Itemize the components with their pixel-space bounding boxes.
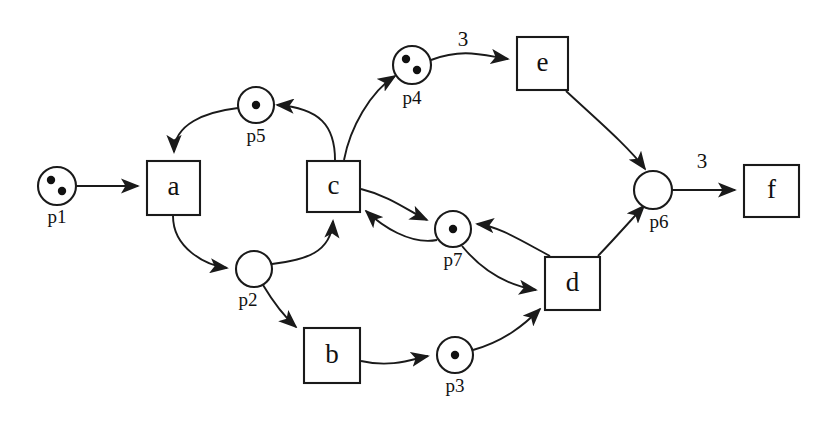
token-p1-2	[58, 187, 66, 195]
place-p6[interactable]: p6	[634, 171, 672, 232]
place-p3[interactable]: p3	[437, 337, 473, 396]
arc-p5-to-a	[174, 108, 238, 152]
transition-f[interactable]: f	[744, 165, 799, 217]
token-p4-1	[402, 55, 410, 63]
transition-c[interactable]: c	[307, 161, 360, 212]
token-p4-2	[413, 66, 421, 74]
place-circle-p1	[38, 167, 76, 205]
transition-label-d: d	[566, 267, 580, 297]
transition-label-e: e	[537, 47, 549, 77]
arc-a-to-p2	[173, 216, 227, 268]
transition-label-c: c	[328, 170, 340, 200]
arc-e-to-p6	[566, 91, 645, 169]
token-p3-1	[451, 351, 459, 359]
arc-d-to-p7	[477, 224, 550, 256]
arc-p7-to-c	[366, 211, 437, 241]
transition-label-f: f	[767, 174, 776, 204]
place-label-p2: p2	[239, 289, 258, 310]
transition-d[interactable]: d	[545, 257, 600, 310]
arc-weights-layer: 33	[458, 27, 708, 173]
place-p5[interactable]: p5	[238, 87, 274, 146]
transitions-layer: abcdef	[147, 37, 799, 383]
petri-net-diagram: p1p2p3p4p5p6p7 abcdef 33	[0, 0, 837, 430]
place-label-p7: p7	[444, 249, 463, 270]
place-circle-p4	[393, 46, 431, 84]
transition-label-b: b	[325, 339, 339, 369]
token-p5-1	[252, 101, 260, 109]
transition-label-a: a	[168, 171, 180, 201]
place-circle-p6	[634, 171, 672, 209]
petri-net-canvas: p1p2p3p4p5p6p7 abcdef 33	[0, 0, 837, 430]
arc-p2-to-c	[272, 221, 333, 264]
place-p1[interactable]: p1	[38, 167, 76, 227]
arc-p2-to-b	[263, 285, 296, 327]
arc-weight-p6-to-f: 3	[697, 149, 708, 173]
transition-a[interactable]: a	[147, 161, 200, 215]
place-label-p5: p5	[247, 125, 266, 146]
place-p4[interactable]: p4	[393, 46, 431, 108]
arc-weight-p4-to-e: 3	[458, 27, 469, 51]
token-p1-1	[47, 176, 55, 184]
place-p7[interactable]: p7	[435, 211, 471, 270]
arc-b-to-p3	[361, 356, 428, 364]
token-p7-1	[449, 225, 457, 233]
arc-p7-to-d	[462, 246, 536, 290]
place-p2[interactable]: p2	[236, 251, 272, 310]
transition-b[interactable]: b	[304, 328, 360, 383]
place-label-p3: p3	[446, 375, 465, 396]
arc-p3-to-d	[473, 309, 540, 350]
place-circle-p2	[236, 251, 272, 287]
arc-c-to-p4	[344, 76, 395, 160]
arc-c-to-p5	[277, 105, 335, 160]
place-label-p4: p4	[403, 87, 423, 108]
arc-d-to-p6	[598, 206, 644, 256]
place-label-p6: p6	[650, 211, 669, 232]
arc-p4-to-e	[431, 53, 508, 60]
place-label-p1: p1	[48, 206, 67, 227]
transition-e[interactable]: e	[517, 37, 568, 90]
